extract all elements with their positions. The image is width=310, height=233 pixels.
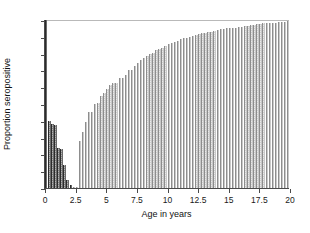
- bar-series: [45, 21, 289, 188]
- seroprevalence-bar-chart: Proportion seropositive 00.10.20.30.40.5…: [0, 0, 310, 233]
- x-tick-mark: [168, 189, 169, 193]
- x-tick-label: 17.5: [251, 195, 268, 205]
- x-tick-label: 7.5: [131, 195, 143, 205]
- x-tick-mark: [290, 189, 291, 193]
- x-tick-label: 10: [163, 195, 172, 205]
- x-tick-mark: [76, 189, 77, 193]
- x-tick-mark: [45, 189, 46, 193]
- x-tick-mark: [137, 189, 138, 193]
- x-tick-mark: [198, 189, 199, 193]
- x-tick-label: 5: [104, 195, 109, 205]
- plot-area: 00.10.20.30.40.50.60.70.80.91 02.557.510…: [44, 20, 289, 188]
- x-tick-label: 0: [43, 195, 48, 205]
- y-axis-title: Proportion seropositive: [2, 58, 12, 150]
- x-tick-label: 15: [224, 195, 233, 205]
- y-axis-line: [44, 20, 45, 189]
- x-axis-title: Age in years: [44, 209, 289, 219]
- x-tick-mark: [259, 189, 260, 193]
- x-tick-label: 2.5: [70, 195, 82, 205]
- bar: [287, 21, 289, 188]
- x-tick-mark: [229, 189, 230, 193]
- x-tick-label: 20: [285, 195, 294, 205]
- x-axis-line: [44, 188, 289, 189]
- x-tick-label: 12.5: [190, 195, 207, 205]
- x-tick-mark: [106, 189, 107, 193]
